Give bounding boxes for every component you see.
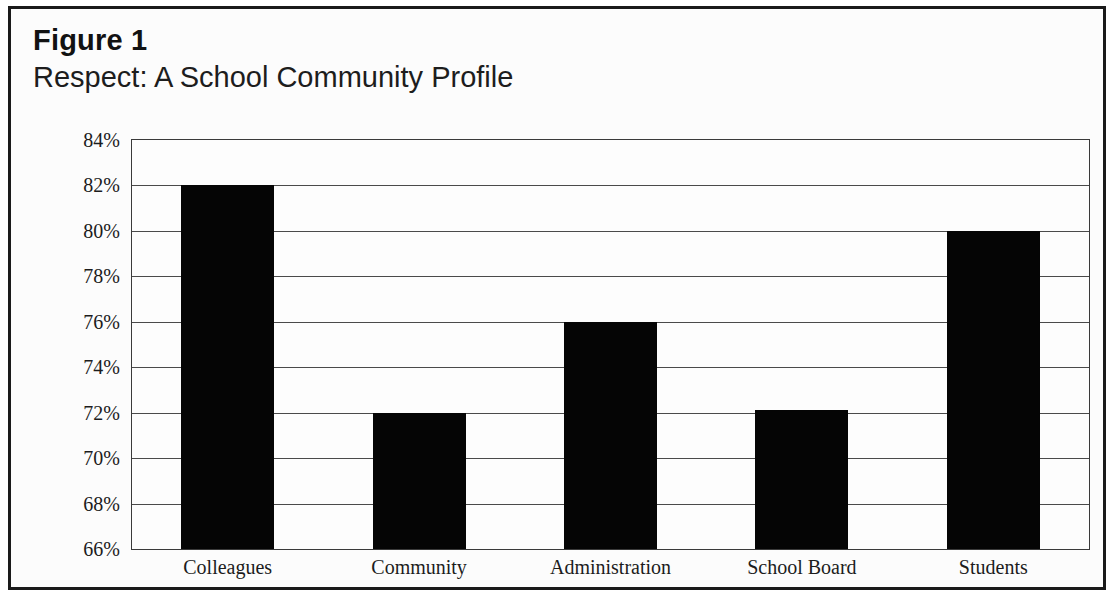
figure-inner-canvas: Figure 1 Respect: A School Community Pro… <box>11 9 1103 587</box>
y-tick-label: 72% <box>83 401 120 424</box>
y-tick-label: 66% <box>83 538 120 561</box>
bar-chart-plot-area: 84%82%80%78%76%74%72%70%68%66% Colleague… <box>131 139 1090 550</box>
y-tick-label: 68% <box>83 492 120 515</box>
x-tick-label-community: Community <box>371 556 467 579</box>
x-tick-label-school-board: School Board <box>747 556 856 579</box>
x-tick-label-colleagues: Colleagues <box>183 556 272 579</box>
figure-border-frame: Figure 1 Respect: A School Community Pro… <box>8 6 1106 590</box>
y-tick-label: 82% <box>83 174 120 197</box>
figure-screenshot: Figure 1 Respect: A School Community Pro… <box>0 0 1120 594</box>
x-tick-label-administration: Administration <box>550 556 671 579</box>
bar-students <box>947 231 1040 549</box>
bar-community <box>373 413 466 549</box>
gridline-82 <box>132 185 1089 186</box>
y-tick-label: 84% <box>83 129 120 152</box>
y-tick-label: 78% <box>83 265 120 288</box>
x-tick-label-students: Students <box>959 556 1028 579</box>
y-tick-label: 70% <box>83 447 120 470</box>
gridline-80 <box>132 231 1089 232</box>
bar-colleagues <box>181 185 274 549</box>
figure-number-label: Figure 1 <box>33 23 147 57</box>
bar-administration <box>564 322 657 549</box>
y-tick-label: 80% <box>83 219 120 242</box>
bar-school-board <box>755 410 848 549</box>
y-tick-label: 74% <box>83 356 120 379</box>
figure-title: Respect: A School Community Profile <box>33 59 513 95</box>
y-tick-label: 76% <box>83 310 120 333</box>
gridline-78 <box>132 276 1089 277</box>
